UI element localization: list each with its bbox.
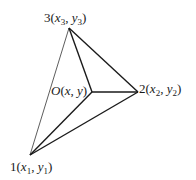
vertex-2-label: 2(x2, y2) (139, 81, 181, 98)
triangle-diagram: 3(x3, y3) 2(x2, y2) O(x, y) 1(x1, y1) (0, 0, 196, 180)
vertex-1-label: 1(x1, y1) (10, 159, 52, 176)
vertex-3-label: 3(x3, y3) (44, 10, 86, 27)
interior-point-label: O(x, y) (51, 83, 87, 98)
